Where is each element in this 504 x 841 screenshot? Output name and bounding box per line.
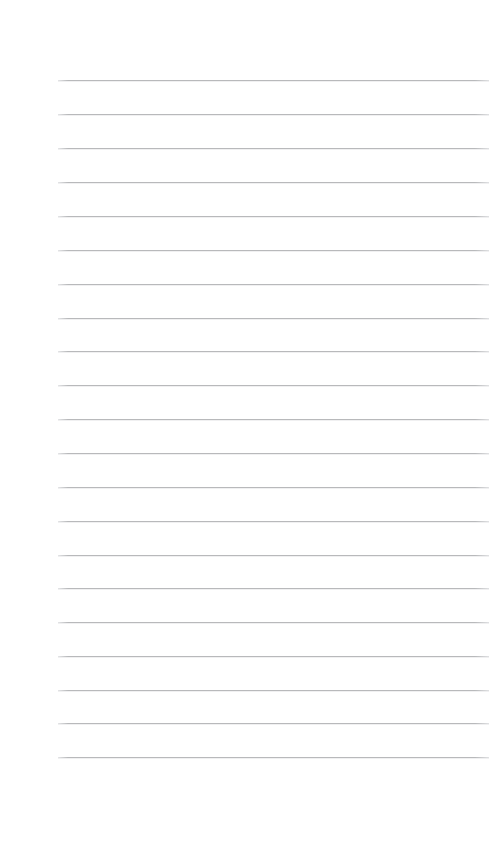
- rule-line: [58, 622, 489, 623]
- writing-area[interactable]: [0, 0, 504, 841]
- rule-line: [58, 555, 489, 556]
- rule-line: [58, 318, 489, 319]
- rule-line: [58, 757, 489, 758]
- rule-line: [58, 250, 489, 251]
- rule-line: [58, 114, 489, 115]
- notebook-page: [0, 0, 504, 841]
- rule-line: [58, 690, 489, 691]
- rule-line: [58, 284, 489, 285]
- rule-line: [58, 487, 489, 488]
- rule-line: [58, 656, 489, 657]
- rule-line: [58, 351, 489, 352]
- rule-line: [58, 588, 489, 589]
- rule-line: [58, 723, 489, 724]
- rule-line: [58, 521, 489, 522]
- rule-line: [58, 148, 489, 149]
- rule-line: [58, 80, 489, 81]
- rule-line: [58, 453, 489, 454]
- rule-line: [58, 182, 489, 183]
- rule-line: [58, 216, 489, 217]
- rule-line: [58, 385, 489, 386]
- rule-line: [58, 419, 489, 420]
